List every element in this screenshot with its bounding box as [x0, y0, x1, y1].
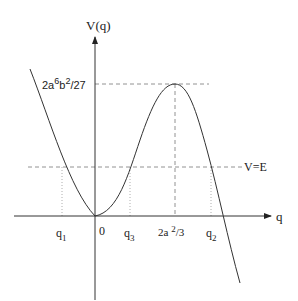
tick-origin: 0 — [99, 224, 105, 238]
tick-q2: q2 — [206, 226, 217, 243]
y-axis-label: V(q) — [86, 18, 111, 33]
tick-peak-position: 2a 2/3 — [158, 224, 185, 238]
potential-diagram: V(q) q 2a6b2/27 V=E q1 0 q3 2a 2/3 q2 — [0, 0, 298, 301]
potential-curve — [30, 69, 240, 283]
tick-q1: q1 — [56, 226, 67, 243]
peak-value-label: 2a6b2/27 — [42, 76, 86, 91]
tick-q3: q3 — [124, 226, 135, 243]
x-axis-label: q — [276, 209, 283, 224]
energy-line-label: V=E — [244, 160, 267, 174]
